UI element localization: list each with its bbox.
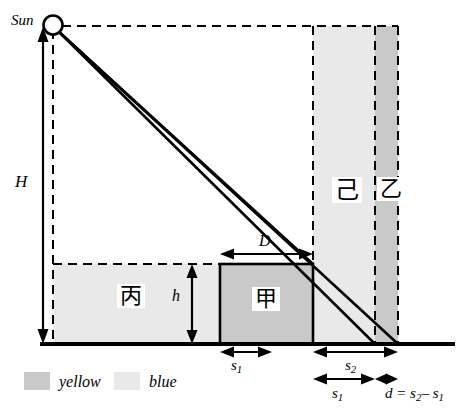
measure-D [220,249,313,260]
label-D: D [259,233,271,249]
sun-icon [44,16,63,35]
measure-s1-left [220,347,272,358]
label-d-sub2: 1 [438,391,443,403]
label-s1-right: s1 [332,386,343,403]
label-region-jia: 甲 [252,287,280,311]
label-s1-left: s1 [231,358,242,375]
legend-label-blue: blue [149,374,177,390]
label-d-prefix: d = s [385,385,416,401]
measure-H [38,27,49,344]
label-H: H [15,173,27,190]
figure-root: Sun H h D 丙 甲 己 乙 s1 s2 s1 d = s2– s1 ye… [0,0,469,420]
label-d-expression: d = s2– s1 [385,386,444,403]
label-region-ji: 己 [332,177,362,203]
label-h: h [172,288,180,304]
legend-swatch-blue [114,372,140,390]
measure-d [375,374,398,385]
label-s1-left-sub: 1 [237,363,242,375]
legend-swatch-yellow [24,372,50,390]
label-d-mid: – s [421,385,438,401]
label-region-bing: 丙 [117,284,145,308]
label-region-yi: 乙 [377,177,405,201]
label-s2: s2 [345,358,356,375]
sun-label: Sun [11,13,34,28]
label-s1-right-sub: 1 [338,391,343,403]
measure-s1-right [313,374,375,385]
label-s2-sub: 2 [351,363,356,375]
measure-s2 [313,347,398,358]
legend-label-yellow: yellow [59,374,101,390]
